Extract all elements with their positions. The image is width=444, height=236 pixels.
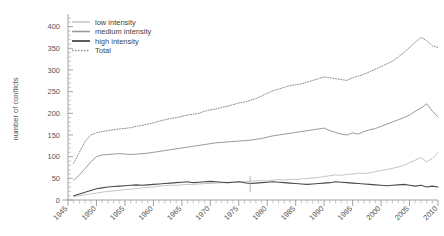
y-tick-label: 100 xyxy=(47,152,60,161)
x-tick-label: 1945 xyxy=(51,204,69,222)
x-tick-label: 1985 xyxy=(279,204,297,222)
chart-container: 0501001502002503003504001945195019551960… xyxy=(0,0,444,236)
y-axis-title: number of conflicts xyxy=(11,77,20,140)
x-tick-label: 1955 xyxy=(108,204,126,222)
legend-label-total: Total xyxy=(95,46,111,55)
y-tick-label: 400 xyxy=(47,22,60,31)
series-line-total xyxy=(74,38,438,164)
x-tick-label: 1995 xyxy=(336,204,354,222)
y-tick-label: 250 xyxy=(47,87,60,96)
x-tick-label: 1980 xyxy=(250,204,268,222)
x-tick-label: 1950 xyxy=(80,204,98,222)
x-tick-label: 1990 xyxy=(307,204,325,222)
legend-label-medium: medium intensity xyxy=(95,27,152,36)
y-tick-label: 200 xyxy=(47,109,60,118)
series-line-low xyxy=(74,152,438,196)
legend-label-high: high intensity xyxy=(95,37,139,46)
x-tick-label: 2010 xyxy=(421,204,439,222)
series-line-medium xyxy=(74,104,438,181)
series-line-high xyxy=(74,181,438,195)
y-tick-label: 300 xyxy=(47,66,60,75)
y-tick-label: 50 xyxy=(52,174,60,183)
y-tick-label: 150 xyxy=(47,131,60,140)
x-tick-label: 2000 xyxy=(364,204,382,222)
x-tick-label: 1965 xyxy=(165,204,183,222)
x-tick-label: 1975 xyxy=(222,204,240,222)
conflicts-line-chart: 0501001502002503003504001945195019551960… xyxy=(0,0,444,236)
x-tick-label: 1970 xyxy=(194,204,212,222)
legend-label-low: low intensity xyxy=(95,18,136,27)
y-tick-label: 0 xyxy=(56,196,60,205)
y-tick-label: 350 xyxy=(47,44,60,53)
x-tick-label: 1960 xyxy=(137,204,155,222)
x-tick-label: 2005 xyxy=(393,204,411,222)
